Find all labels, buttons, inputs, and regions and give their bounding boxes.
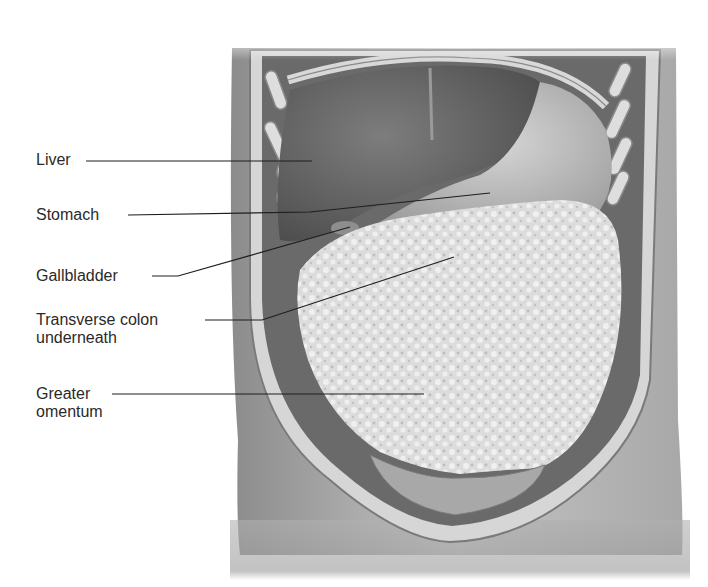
label-gallbladder: Gallbladder xyxy=(36,267,118,285)
label-stomach: Stomach xyxy=(36,206,99,224)
label-greater-omentum: Greater omentum xyxy=(36,385,103,421)
label-greater-omentum-line2: omentum xyxy=(36,403,103,421)
label-transverse-colon: Transverse colon underneath xyxy=(36,311,158,347)
anatomy-figure: Liver Stomach Gallbladder Transverse col… xyxy=(0,0,708,587)
label-stomach-text: Stomach xyxy=(36,206,99,223)
label-greater-omentum-line1: Greater xyxy=(36,385,103,403)
label-gallbladder-text: Gallbladder xyxy=(36,267,118,284)
label-liver: Liver xyxy=(36,151,71,169)
abdomen-illustration xyxy=(0,0,708,587)
label-transverse-colon-line2: underneath xyxy=(36,329,158,347)
label-liver-text: Liver xyxy=(36,151,71,168)
label-transverse-colon-line1: Transverse colon xyxy=(36,311,158,329)
